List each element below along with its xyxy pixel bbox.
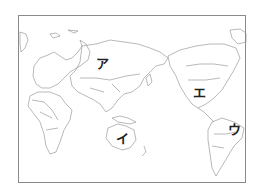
map-label-u: ウ bbox=[228, 123, 241, 136]
map-label-i: イ bbox=[116, 132, 129, 145]
asia-outline bbox=[70, 40, 168, 112]
europe-outline bbox=[33, 40, 90, 88]
map-label-a: ア bbox=[96, 57, 109, 70]
africa-outline bbox=[28, 92, 72, 154]
world-map-outline bbox=[0, 0, 261, 195]
map-label-e: エ bbox=[193, 86, 206, 99]
greenland-outline bbox=[20, 32, 28, 52]
